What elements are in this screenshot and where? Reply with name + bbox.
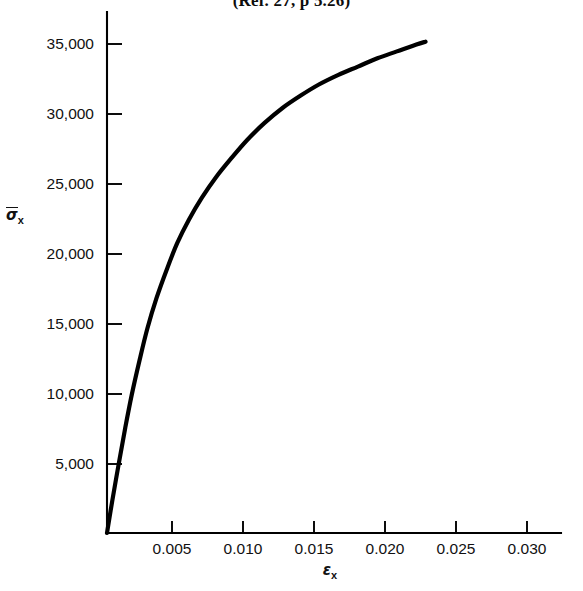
y-tick-label-30000: 30,000 bbox=[16, 105, 94, 123]
x-tick-label-0030: 0.030 bbox=[508, 540, 547, 558]
y-tick-label-10000: 10,000 bbox=[16, 385, 94, 403]
x-tick-label-0025: 0.025 bbox=[437, 540, 476, 558]
x-axis-label-subscript: x bbox=[331, 569, 337, 581]
y-tick-label-5000: 5,000 bbox=[16, 455, 94, 473]
x-tick-label-0015: 0.015 bbox=[295, 540, 334, 558]
axis-lines bbox=[107, 12, 561, 533]
y-tick-label-25000: 25,000 bbox=[16, 175, 94, 193]
x-tick-label-0020: 0.020 bbox=[366, 540, 405, 558]
x-tick-label-0010: 0.010 bbox=[224, 540, 263, 558]
y-axis-label: σx bbox=[6, 206, 24, 226]
stress-strain-chart-figure: (Ref. 27, p 5.26) 35,000 30,000 25,000 2… bbox=[0, 0, 583, 591]
y-axis-ticks bbox=[107, 44, 122, 464]
x-axis-label: εx bbox=[323, 561, 337, 581]
x-axis-ticks bbox=[172, 521, 527, 533]
x-tick-label-0005: 0.005 bbox=[153, 540, 192, 558]
plot-area bbox=[0, 0, 583, 591]
y-tick-label-35000: 35,000 bbox=[16, 35, 94, 53]
y-tick-label-15000: 15,000 bbox=[16, 315, 94, 333]
stress-strain-curve bbox=[107, 42, 426, 533]
y-tick-label-20000: 20,000 bbox=[16, 245, 94, 263]
y-axis-label-symbol: σ bbox=[6, 206, 18, 224]
y-axis-label-subscript: x bbox=[18, 214, 24, 226]
